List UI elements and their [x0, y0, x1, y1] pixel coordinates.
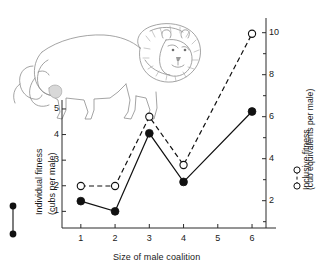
legend-marker-open-circle: [294, 183, 300, 189]
right-tick-label-2: 2: [269, 195, 289, 205]
x-tick-label-1: 1: [71, 233, 91, 243]
figure-panel: 12345612345246810 Size of male coalition…: [0, 0, 321, 275]
left-axis-label-text: Individual fitness: [34, 148, 44, 215]
left-tick-label-4: 4: [39, 129, 59, 139]
x-tick-label-4: 4: [174, 233, 194, 243]
x-tick-label-3: 3: [139, 233, 159, 243]
x-tick-label-6: 6: [242, 233, 262, 243]
x-axis-title: Size of male coalition: [113, 252, 200, 262]
tick-labels: 12345612345246810: [0, 0, 321, 275]
right-tick-label-10: 10: [269, 27, 289, 37]
legend-individual-fitness: [7, 238, 49, 249]
x-tick-label-2: 2: [105, 233, 125, 243]
right-axis-sublabel: (cub equivalents per male): [305, 190, 321, 200]
right-axis-sublabel-text: (cub equivalents per male): [305, 89, 315, 190]
x-tick-label-5: 5: [208, 233, 228, 243]
left-tick-label-5: 5: [39, 103, 59, 113]
legend-marker-filled-circle: [10, 231, 17, 238]
right-tick-label-6: 6: [269, 111, 289, 121]
left-axis-sublabel-text: (cubs per male): [47, 152, 57, 215]
right-tick-label-8: 8: [269, 69, 289, 79]
right-tick-label-4: 4: [269, 153, 289, 163]
left-axis-sublabel: (cubs per male): [47, 215, 110, 225]
